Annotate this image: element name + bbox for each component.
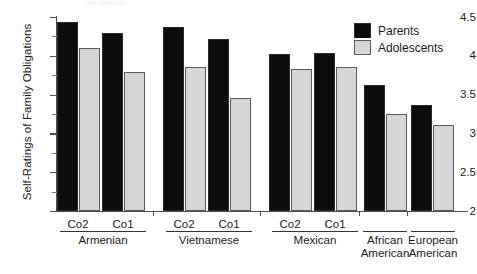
bar-parents-armenian-co1	[102, 33, 123, 211]
bar-parents-mexican-co1	[314, 53, 335, 211]
x-tick-label-vietnamese-co1: Co1	[204, 218, 254, 230]
legend-label-adolescents: Adolescents	[378, 41, 443, 55]
bar-parents-european-american	[411, 105, 432, 211]
x-tick-label-vietnamese-co2: Co2	[159, 218, 209, 230]
chart-legend: Parents Adolescents	[354, 22, 443, 56]
group-label-european-american: EuropeanAmerican	[389, 234, 477, 260]
x-axis-separator-tick	[153, 211, 154, 216]
group-bracket-rule	[363, 231, 407, 232]
legend-swatch-parents-icon	[354, 23, 371, 38]
group-label-line2: American	[389, 247, 477, 260]
group-bracket-rule	[411, 231, 455, 232]
legend-label-parents: Parents	[378, 24, 419, 38]
legend-item-adolescents: Adolescents	[354, 39, 443, 56]
x-tick-label-armenian-co1: Co1	[98, 218, 148, 230]
bar-adolescents-mexican-co1	[336, 67, 357, 211]
bar-parents-armenian-co2	[57, 22, 78, 211]
y-axis-title: Self-Ratings of Family Obligations	[21, 12, 33, 212]
bar-parents-african-american	[364, 85, 385, 211]
cropped-caption-text: conclusions.	[84, 0, 129, 6]
bar-adolescents-armenian-co2	[79, 48, 100, 211]
bar-adolescents-vietnamese-co2	[185, 67, 206, 211]
bar-adolescents-vietnamese-co1	[230, 98, 251, 211]
bar-parents-mexican-co2	[269, 54, 290, 211]
group-label-line1: European	[389, 234, 477, 247]
bar-adolescents-european-american	[433, 125, 454, 211]
legend-swatch-adolescents-icon	[354, 40, 371, 55]
bar-parents-vietnamese-co2	[163, 27, 184, 211]
y-tick-major	[50, 211, 57, 212]
group-bracket-rule	[60, 231, 146, 232]
x-tick-label-mexican-co2: Co2	[265, 218, 315, 230]
legend-item-parents: Parents	[354, 22, 443, 39]
x-tick-label-mexican-co1: Co1	[310, 218, 360, 230]
x-axis-separator-tick	[260, 211, 261, 216]
bar-adolescents-armenian-co1	[124, 72, 145, 211]
group-bracket-rule	[166, 231, 252, 232]
bar-parents-vietnamese-co1	[208, 39, 229, 211]
bar-adolescents-african-american	[386, 114, 407, 211]
x-tick-label-armenian-co2: Co2	[53, 218, 103, 230]
x-axis-separator-tick	[359, 211, 360, 216]
bar-adolescents-mexican-co2	[291, 69, 312, 211]
y-tick-major	[50, 17, 57, 18]
group-bracket-rule	[272, 231, 358, 232]
x-axis-separator-tick	[407, 211, 408, 216]
